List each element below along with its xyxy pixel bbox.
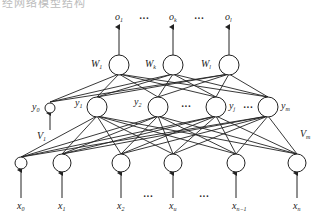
hidden-label-ym: ym bbox=[280, 100, 290, 112]
weight-label-Vm: Vm bbox=[300, 128, 311, 140]
hidden-label-y0: y0 bbox=[31, 101, 39, 113]
node-x2 bbox=[112, 154, 130, 172]
input-ellipsis-1: ··· bbox=[143, 191, 153, 202]
input-label-x1: x1 bbox=[57, 200, 65, 212]
node-xn-1 bbox=[227, 154, 245, 172]
input-label-xn: xn bbox=[292, 200, 300, 212]
node-ok bbox=[163, 55, 183, 75]
output-label-o1: o1 bbox=[115, 11, 123, 23]
node-y2 bbox=[148, 97, 168, 117]
node-yj bbox=[206, 97, 226, 117]
weight-label-Wk: Wk bbox=[145, 58, 156, 70]
output-label-ok: ok bbox=[169, 11, 177, 23]
nodes bbox=[15, 55, 306, 172]
output-ellipsis-1: ··· bbox=[139, 13, 149, 24]
neural-network-diagram: o1W1okWkolWlx0x1x2xuxn−1xny0y1y2yjymV1Vm… bbox=[0, 0, 323, 223]
node-y0 bbox=[45, 103, 55, 113]
input-label-xu: xu bbox=[168, 200, 176, 212]
node-xu bbox=[164, 154, 182, 172]
input-to-hidden-connections bbox=[21, 116, 297, 157]
weight-label-W1: W1 bbox=[91, 58, 102, 70]
hidden-label-y1: y1 bbox=[74, 97, 82, 109]
input-ellipsis-2: ··· bbox=[199, 191, 209, 202]
hidden-label-y2: y2 bbox=[133, 96, 141, 108]
node-x0 bbox=[15, 157, 27, 169]
weight-label-V1: V1 bbox=[37, 130, 46, 142]
hidden-ellipsis-2: ··· bbox=[243, 102, 253, 113]
node-xn bbox=[288, 154, 306, 172]
hidden-label-yj: yj bbox=[228, 100, 235, 112]
node-y1 bbox=[87, 97, 107, 117]
output-label-ol: ol bbox=[225, 11, 232, 23]
node-ol bbox=[219, 55, 239, 75]
node-x1 bbox=[53, 154, 71, 172]
input-label-x2: x2 bbox=[116, 200, 124, 212]
hidden-ellipsis-1: ··· bbox=[181, 101, 191, 112]
node-o1 bbox=[109, 55, 129, 75]
weight-label-Wl: Wl bbox=[201, 58, 211, 70]
input-label-xn-1: xn−1 bbox=[231, 200, 247, 212]
input-label-x0: x0 bbox=[16, 200, 24, 212]
output-ellipsis-2: ··· bbox=[194, 13, 204, 24]
node-ym bbox=[258, 97, 278, 117]
